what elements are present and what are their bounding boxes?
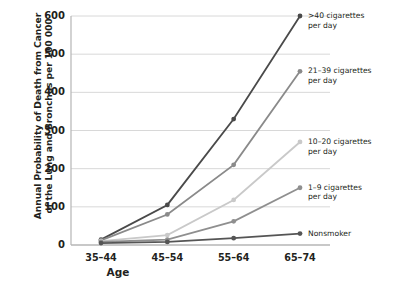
series-line — [101, 71, 300, 240]
y-tick-label: 0 — [31, 239, 65, 250]
legend-item: Nonsmoker — [308, 229, 394, 239]
series-line — [101, 142, 300, 241]
x-tick-label: 65–74 — [270, 252, 330, 263]
data-point — [165, 203, 170, 208]
data-point — [231, 219, 236, 224]
y-tick-label: 200 — [31, 163, 65, 174]
data-series — [99, 14, 303, 246]
data-point — [298, 185, 303, 190]
legend-item: 10–20 cigarettesper day — [308, 137, 394, 156]
data-point — [298, 69, 303, 74]
series-line — [101, 188, 300, 242]
legend-label-line1: Nonsmoker — [308, 229, 394, 239]
x-tick-label: 55–64 — [204, 252, 264, 263]
legend-label-line1: 10–20 cigarettes — [308, 137, 394, 147]
legend-label-line2: per day — [308, 21, 394, 31]
legend-label-line2: per day — [308, 147, 394, 157]
legend-label-line1: 1–9 cigarettes — [308, 183, 394, 193]
gridlines — [71, 16, 330, 245]
x-tick-label: 45–54 — [137, 252, 197, 263]
data-point — [231, 162, 236, 167]
data-point — [298, 140, 303, 145]
series-line — [101, 16, 300, 240]
y-tick-label: 300 — [31, 125, 65, 136]
data-point — [298, 14, 303, 19]
legend-label-line2: per day — [308, 192, 394, 202]
legend-label-line1: >40 cigarettes — [308, 11, 394, 21]
data-point — [165, 212, 170, 217]
y-tick-label: 500 — [31, 48, 65, 59]
y-axis-title-line1: Annual Probability of Death from Cancer — [32, 13, 43, 219]
line-chart: Annual Probability of Death from Cancer … — [0, 0, 396, 284]
y-axis-title: Annual Probability of Death from Cancer … — [29, 1, 57, 231]
data-point — [231, 117, 236, 122]
legend-label-line1: 21–39 cigarettes — [308, 66, 394, 76]
legend-item: >40 cigarettesper day — [308, 11, 394, 30]
x-axis-title: Age — [0, 266, 396, 278]
data-point — [231, 198, 236, 203]
data-point — [231, 236, 236, 241]
data-point — [165, 233, 170, 238]
data-point — [99, 241, 104, 246]
legend-item: 1–9 cigarettesper day — [308, 183, 394, 202]
data-point — [165, 240, 170, 245]
legend-item: 21–39 cigarettesper day — [308, 66, 394, 85]
data-point — [298, 231, 303, 236]
legend-label-line2: per day — [308, 76, 394, 86]
y-tick-label: 400 — [31, 86, 65, 97]
y-tick-label: 600 — [31, 10, 65, 21]
y-tick-label: 100 — [31, 201, 65, 212]
x-tick-label: 35–44 — [71, 252, 131, 263]
